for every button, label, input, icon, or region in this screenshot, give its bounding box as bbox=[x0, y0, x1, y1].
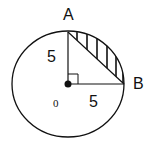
label-a: A bbox=[63, 7, 74, 23]
label-o: 0 bbox=[53, 98, 59, 109]
center-point bbox=[65, 81, 72, 88]
shaded-segment bbox=[77, 30, 123, 90]
label-b: B bbox=[133, 76, 144, 92]
length-oa: 5 bbox=[47, 49, 56, 65]
length-ob: 5 bbox=[89, 94, 98, 110]
circle-diagram bbox=[0, 0, 157, 145]
